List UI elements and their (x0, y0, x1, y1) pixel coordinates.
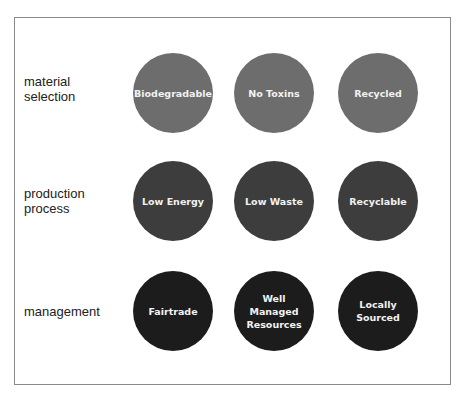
circle-well-managed-resources: Well Managed Resources (234, 271, 314, 351)
circle-low-energy: Low Energy (133, 161, 213, 241)
circle-recyclable: Recyclable (338, 161, 418, 241)
circle-biodegradable: Biodegradable (133, 53, 213, 133)
circle-fairtrade: Fairtrade (133, 271, 213, 351)
row-label-material-selection: material selection (24, 74, 75, 104)
circle-no-toxins: No Toxins (234, 53, 314, 133)
circle-recycled: Recycled (338, 53, 418, 133)
row-label-production-process: production process (24, 186, 85, 216)
circle-locally-sourced: Locally Sourced (338, 271, 418, 351)
row-label-management: management (24, 304, 100, 319)
circle-low-waste: Low Waste (234, 161, 314, 241)
